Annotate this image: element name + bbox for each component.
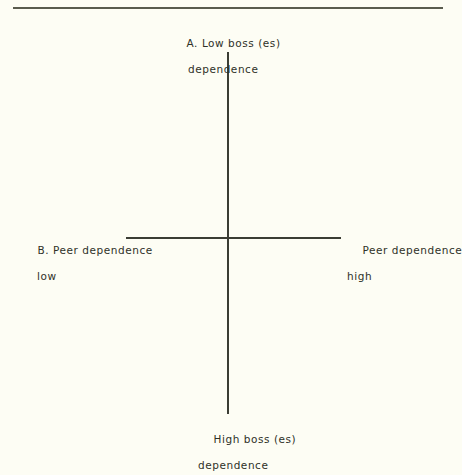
axis-label-left-line1: B. Peer dependence [38, 244, 153, 256]
axis-label-left-line2: low [22, 270, 153, 283]
axis-label-bottom-line2: dependence [198, 459, 296, 472]
horizontal-axis-line [126, 237, 341, 239]
axis-label-right: Peer dependence high [347, 231, 462, 309]
axis-label-right-line2: high [347, 270, 462, 283]
axis-label-bottom: High boss (es) dependence [198, 420, 296, 475]
axis-label-left: B. Peer dependence low [22, 231, 153, 309]
axis-label-top-line2: dependence [171, 63, 281, 76]
vertical-axis-line [227, 52, 229, 414]
axis-label-top: A. Low boss (es) dependence [171, 24, 281, 102]
axis-label-bottom-line1: High boss (es) [214, 433, 297, 445]
top-divider-rule [13, 7, 443, 9]
axis-label-top-line1: A. Low boss (es) [187, 37, 281, 49]
axis-label-right-line1: Peer dependence [363, 244, 462, 256]
